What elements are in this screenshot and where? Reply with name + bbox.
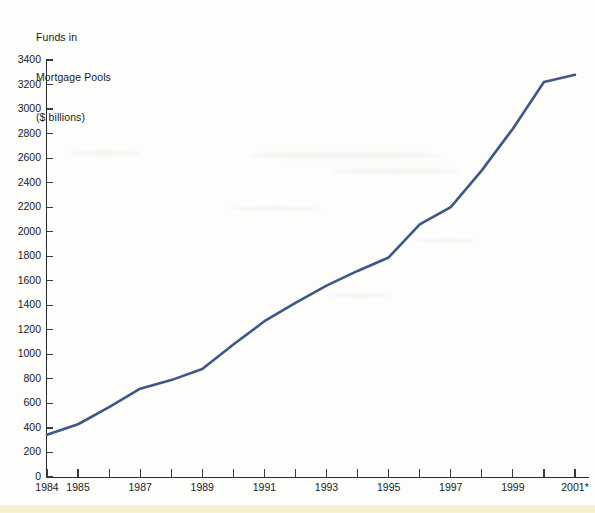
chart-page: Funds in Mortgage Pools ($ billions) 020… xyxy=(0,0,595,513)
bottom-color-strip xyxy=(0,505,595,513)
plot-area: 0200400600800100012001400160018002000220… xyxy=(0,0,595,513)
series-line-funds-in-mortgage-pools xyxy=(47,75,575,435)
series-line-chart xyxy=(0,0,595,513)
